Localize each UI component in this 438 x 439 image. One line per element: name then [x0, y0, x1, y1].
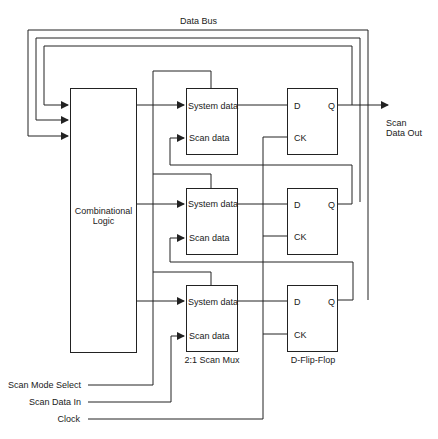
scan-mux-1: [186, 88, 238, 155]
scan-mode-to-mux3: [153, 272, 211, 285]
ff2-ck-label: CK: [294, 232, 307, 242]
combinational-logic-line1: Combinational: [70, 206, 137, 216]
mux2-scan-data-label: Scan data: [189, 233, 230, 243]
data-bus-label: Data Bus: [180, 16, 217, 26]
combinational-logic-line2: Logic: [70, 216, 137, 226]
ff3-d-label: D: [294, 297, 301, 307]
ff1-ck-label: CK: [294, 133, 307, 143]
mux3-scan-data-label: Scan data: [189, 331, 230, 341]
scan-mode-select-label: Scan Mode Select: [0, 380, 81, 390]
ff1-q-label: Q: [328, 101, 335, 111]
ff3-ck-label: CK: [294, 330, 307, 340]
mux-caption: 2:1 Scan Mux: [178, 355, 246, 365]
ff2-d-label: D: [294, 200, 301, 210]
ff2-q-label: Q: [328, 200, 335, 210]
ff3-q-label: Q: [328, 297, 335, 307]
mux1-scan-data-label: Scan data: [189, 133, 230, 143]
ff1-d-label: D: [294, 101, 301, 111]
mux1-system-data-label: System data: [188, 101, 238, 111]
scan-data-out-line2: Data Out: [386, 128, 422, 138]
scan-data-in-label: Scan Data In: [0, 397, 81, 407]
clock-label: Clock: [0, 414, 80, 424]
d-flip-flop-3: [287, 285, 338, 352]
ff-caption: D-Flip-Flop: [280, 355, 346, 365]
d-flip-flop-1: [287, 88, 338, 155]
scan-data-out-label: Scan Data Out: [386, 118, 422, 138]
mux2-system-data-label: System data: [188, 199, 238, 209]
scan-mode-to-mux2: [153, 174, 211, 188]
mux3-system-data-label: System data: [188, 297, 238, 307]
combinational-logic-label: Combinational Logic: [70, 206, 137, 226]
d-flip-flop-2: [287, 188, 338, 255]
scan-data-out-line1: Scan: [386, 118, 422, 128]
scan-mux-3: [186, 285, 238, 352]
